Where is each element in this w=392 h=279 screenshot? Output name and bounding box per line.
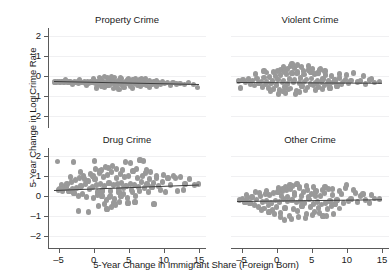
scatter-matrix-figure: 5-Year Change in Log Crime Rate 5-Year C… (0, 0, 392, 279)
data-point (132, 199, 137, 204)
y-axis-tick (44, 156, 48, 157)
data-point (289, 216, 294, 221)
data-point (289, 61, 294, 66)
data-point (110, 163, 115, 168)
gridline (231, 36, 389, 37)
x-axis-tick-label: 5 (117, 255, 141, 265)
data-point (160, 179, 165, 184)
data-point (299, 193, 304, 198)
data-point (295, 62, 300, 67)
data-point (324, 213, 329, 218)
y-axis-tick-label: 0 (21, 71, 41, 81)
data-point (92, 158, 97, 163)
x-axis-tick (382, 249, 383, 253)
data-point (351, 70, 356, 75)
data-point (274, 204, 279, 209)
gridline (231, 156, 389, 157)
panel-other-crime: Other Crime –5051015 (231, 148, 389, 248)
gridline (48, 96, 206, 97)
data-point (268, 88, 273, 93)
data-point (94, 85, 99, 90)
data-point (320, 187, 325, 192)
data-point (253, 71, 258, 76)
data-point (82, 176, 87, 181)
data-point (244, 192, 249, 197)
x-axis-tick-label: 0 (82, 255, 106, 265)
y-axis-tick (44, 36, 48, 37)
data-point (294, 181, 299, 186)
x-axis-tick-label: 10 (152, 255, 176, 265)
data-point (344, 182, 349, 187)
data-point (272, 211, 277, 216)
data-point (367, 200, 372, 205)
gridline (48, 236, 206, 237)
data-point (280, 186, 285, 191)
data-point (130, 77, 135, 82)
data-point (106, 83, 111, 88)
gridline (48, 156, 206, 157)
y-axis-tick-label: –1 (21, 91, 41, 101)
data-point (123, 159, 128, 164)
data-point (297, 89, 302, 94)
data-point (294, 71, 299, 76)
data-point (84, 194, 89, 199)
gridline (231, 116, 389, 117)
data-point (114, 166, 119, 171)
y-axis-tick (44, 56, 48, 57)
y-axis-tick-label: –2 (21, 111, 41, 121)
data-point (313, 193, 318, 198)
data-point (353, 190, 358, 195)
y-axis-tick (44, 216, 48, 217)
data-point (369, 192, 374, 197)
data-point (317, 210, 322, 215)
data-point (303, 88, 308, 93)
data-point (306, 194, 311, 199)
data-point (102, 201, 107, 206)
data-point (282, 69, 287, 74)
y-axis-tick-label: –2 (21, 231, 41, 241)
x-axis-tick (199, 249, 200, 253)
data-point (96, 203, 101, 208)
data-point (71, 159, 76, 164)
gridline (48, 216, 206, 217)
regression-fit-line (237, 82, 382, 84)
data-point (257, 190, 262, 195)
data-point (68, 174, 73, 179)
y-axis-tick (44, 96, 48, 97)
data-point (108, 193, 113, 198)
gridline (48, 36, 206, 37)
x-axis-spine (231, 248, 389, 249)
y-axis-tick (44, 236, 48, 237)
data-point (114, 84, 119, 89)
data-point (361, 73, 366, 78)
data-point (296, 214, 301, 219)
x-axis-tick (347, 249, 348, 253)
data-point (118, 75, 123, 80)
plot-area: –5051015 (231, 148, 389, 248)
data-point (295, 208, 300, 213)
x-axis-tick-label: 15 (370, 255, 392, 265)
y-axis-spine (48, 28, 49, 128)
panel-property-crime: Property Crime –2–1012 (48, 28, 206, 128)
data-point (78, 169, 83, 174)
plot-area: –2–1012–5051015 (48, 148, 206, 248)
data-point (139, 179, 144, 184)
data-point (84, 82, 89, 87)
data-point (148, 169, 153, 174)
data-point (70, 82, 75, 87)
data-point (195, 85, 200, 90)
data-point (134, 166, 139, 171)
plot-area (231, 28, 389, 128)
data-point (264, 188, 269, 193)
data-point (331, 211, 336, 216)
data-point (122, 85, 127, 90)
data-point (313, 87, 318, 92)
data-point (120, 167, 125, 172)
data-point (90, 173, 95, 178)
x-axis-tick-label: –5 (230, 255, 254, 265)
data-point (76, 208, 81, 213)
gridline (231, 236, 389, 237)
y-axis-tick-label: 0 (21, 191, 41, 201)
data-point (310, 66, 315, 71)
data-point (280, 89, 285, 94)
